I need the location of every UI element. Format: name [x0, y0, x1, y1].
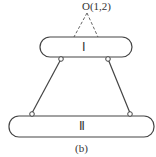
bar-bottom-label: Ⅱ — [79, 120, 85, 132]
pin-joint-top-left — [59, 57, 64, 62]
pin-joint-bottom-left — [30, 112, 35, 117]
link-left — [32, 59, 61, 113]
linkage-diagram — [0, 0, 156, 157]
caption: (b) — [75, 143, 88, 154]
point-o-label: O(1,2) — [82, 1, 111, 12]
bar-top — [40, 37, 132, 57]
bar-top-label: Ⅰ — [82, 41, 86, 53]
pin-joint-top-right — [106, 57, 111, 62]
link-right — [108, 59, 130, 113]
pin-joint-bottom-right — [128, 112, 133, 117]
